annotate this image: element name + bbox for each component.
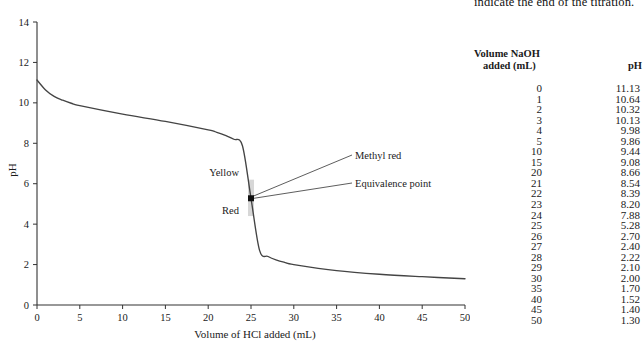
cell-volume: 2 [474,104,578,115]
table-row: 49.98 [474,125,642,136]
y-tick-label: 6 [24,178,29,189]
titration-curve-plot: 02468101214 05101520253035404550 pH Volu… [0,0,470,354]
y-tick-label: 4 [24,219,30,230]
equivalence-point-leader-line [254,183,352,198]
equivalence-point-label: Equivalence point [355,178,431,189]
cell-volume: 15 [474,157,578,168]
table-head: Volume NaOH added (mL) pH [474,48,642,83]
table-row: 351.70 [474,283,642,294]
cell-volume: 4 [474,125,578,136]
y-axis-tick-labels: 02468101214 [19,17,30,311]
cell-ph: 1.30 [578,315,642,326]
table-row: 208.66 [474,167,642,178]
table-header-volume-line2: added (mL) [474,60,578,72]
cell-volume: 27 [474,241,578,252]
cell-volume: 28 [474,252,578,263]
caption-tail-text: indicate the end of the titration. [474,0,639,9]
cell-volume: 25 [474,220,578,231]
cell-volume: 24 [474,210,578,221]
x-tick-label: 20 [203,312,214,323]
x-tick-label: 40 [374,312,385,323]
x-tick-label: 0 [34,312,39,323]
table-row: 401.52 [474,294,642,305]
y-tick-label: 12 [19,57,30,68]
table-row: 282.22 [474,252,642,263]
table-row: 310.13 [474,115,642,126]
cell-volume: 26 [474,231,578,242]
red-region-label: Red [222,205,240,216]
table-row: 109.44 [474,146,642,157]
table-row: 159.08 [474,157,642,168]
x-tick-label: 10 [117,312,128,323]
table-row: 247.88 [474,210,642,221]
equivalence-point-marker [248,195,254,201]
cell-volume: 21 [474,178,578,189]
table-header-volume: Volume NaOH added (mL) [474,48,578,71]
y-tick-label: 0 [24,300,29,311]
table-row: 255.28 [474,220,642,231]
table-row: 59.86 [474,136,642,147]
yellow-region-label: Yellow [209,167,239,178]
table-row: 292.10 [474,262,642,273]
cell-volume: 0 [474,83,578,94]
methyl-red-leader-line [253,155,352,196]
x-axis-tick-labels: 05101520253035404550 [34,312,470,323]
y-tick-label: 14 [19,17,30,28]
titration-chart-panel: 02468101214 05101520253035404550 pH Volu… [0,0,470,354]
cell-volume: 20 [474,167,578,178]
cell-volume: 35 [474,283,578,294]
cell-volume: 50 [474,315,578,326]
cell-volume: 5 [474,136,578,147]
table-row: 302.00 [474,273,642,284]
x-tick-label: 45 [417,312,428,323]
cell-volume: 45 [474,304,578,315]
x-axis-title: Volume of HCl added (mL) [194,328,316,341]
x-tick-label: 25 [246,312,257,323]
x-axis-ticks [37,305,465,309]
cell-volume: 10 [474,146,578,157]
y-tick-label: 10 [19,97,30,108]
x-tick-label: 30 [289,312,300,323]
x-tick-label: 15 [160,312,171,323]
cell-volume: 30 [474,273,578,284]
cell-volume: 23 [474,199,578,210]
table-row: 218.54 [474,178,642,189]
table-body: 011.13110.64210.32310.1349.9859.86109.44… [474,83,642,326]
cell-ph: 8.20 [578,199,642,210]
table-row: 451.40 [474,304,642,315]
cell-volume: 3 [474,115,578,126]
cell-volume: 29 [474,262,578,273]
y-tick-label: 8 [24,138,29,149]
table-row: 228.39 [474,188,642,199]
right-column: indicate the end of the titration. Volum… [466,0,644,354]
x-tick-label: 35 [331,312,342,323]
methyl-red-label: Methyl red [355,150,402,161]
table-row: 011.13 [474,83,642,94]
table-row: 238.20 [474,199,642,210]
y-axis-title: pH [6,163,18,177]
table-header-row: Volume NaOH added (mL) pH [474,48,642,71]
table-row: 262.70 [474,231,642,242]
cell-volume: 40 [474,294,578,305]
cell-volume: 1 [474,94,578,105]
y-axis-ticks [33,22,37,305]
titration-data-table: Volume NaOH added (mL) pH 011.13110.6421… [474,48,642,326]
x-tick-label: 5 [77,312,82,323]
cell-volume: 22 [474,188,578,199]
table-header-volume-line1: Volume NaOH [474,48,578,60]
table-header-ph: pH [578,48,642,71]
y-tick-label: 2 [24,259,29,270]
cell-ph: 11.13 [578,83,642,94]
table-row: 501.30 [474,315,642,326]
table-row: 272.40 [474,241,642,252]
